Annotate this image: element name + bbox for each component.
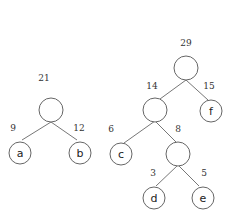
leaf-label-e: e bbox=[200, 192, 207, 205]
edge-weight-14: 14 bbox=[146, 81, 158, 91]
edge-weight-b: 12 bbox=[73, 123, 84, 133]
edge-weight-5: 5 bbox=[201, 168, 207, 178]
leaf-label-b: b bbox=[77, 147, 84, 160]
right-root-weight: 29 bbox=[180, 38, 192, 48]
left-root-weight: 21 bbox=[38, 73, 49, 83]
left-root-node bbox=[39, 98, 63, 122]
edge-14-8 bbox=[155, 121, 176, 142]
internal-node-8 bbox=[166, 142, 190, 166]
edge-weight-a: 9 bbox=[10, 123, 16, 133]
right-root-node bbox=[174, 56, 198, 80]
edge-weight-15: 15 bbox=[203, 81, 215, 91]
leaf-label-d: d bbox=[151, 192, 158, 205]
edge-8-e bbox=[178, 165, 199, 186]
edge-14-c bbox=[124, 121, 155, 143]
edge-weight-6: 6 bbox=[108, 124, 114, 134]
edge-left-root-a bbox=[22, 122, 51, 140]
leaf-label-a: a bbox=[17, 147, 24, 160]
internal-node-14 bbox=[143, 98, 167, 122]
right-tree: 29 14 15 f 6 8 c 3 5 d e bbox=[108, 38, 222, 209]
huffman-tree-diagram: 21 9 12 a b 29 14 15 f 6 8 c 3 5 d e bbox=[0, 0, 235, 217]
edge-right-root-14 bbox=[160, 80, 186, 99]
left-tree: 21 9 12 a b bbox=[9, 73, 91, 164]
edge-weight-3: 3 bbox=[150, 168, 156, 178]
leaf-label-c: c bbox=[118, 148, 124, 161]
edge-8-d bbox=[156, 165, 178, 186]
edge-weight-8: 8 bbox=[175, 124, 181, 134]
